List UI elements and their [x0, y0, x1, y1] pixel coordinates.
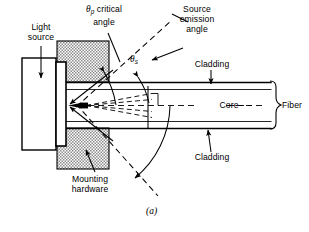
label-fiber: Fiber: [282, 100, 309, 110]
label-core: Core: [212, 100, 246, 110]
critical-angle-text: critical angle: [93, 4, 122, 27]
label-theta-s: θs: [130, 54, 154, 67]
label-mounting-hardware: Mounting hardware: [52, 174, 128, 194]
label-critical-angle: θp critical angle: [58, 4, 150, 27]
light-source-body: [22, 58, 66, 150]
label-source-emission-angle: Source emission angle: [164, 4, 230, 35]
label-cladding-top: Cladding: [184, 59, 240, 69]
label-cladding-bottom: Cladding: [184, 152, 240, 162]
angle-arcs: [104, 72, 170, 178]
figure-optical-fiber-coupling: Light source θp critical angle Source em…: [0, 0, 309, 232]
figure-caption: (a): [146, 206, 157, 216]
theta-s-subscript: s: [135, 58, 138, 65]
